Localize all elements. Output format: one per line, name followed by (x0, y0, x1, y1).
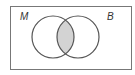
set-b-label: B (107, 11, 114, 22)
venn-diagram: M B (0, 0, 135, 75)
set-m-label: M (20, 11, 29, 22)
